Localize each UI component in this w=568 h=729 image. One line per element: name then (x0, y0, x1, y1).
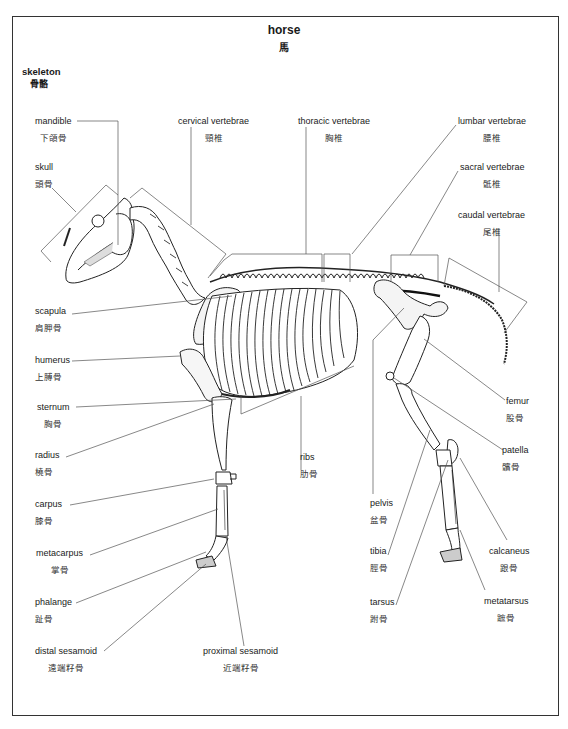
label-distal-sesamoid: distal sesamoid 遠端籽骨 (35, 646, 97, 674)
label-humerus: humerus 上膊骨 (35, 355, 70, 383)
label-radius: radius 橈骨 (35, 450, 60, 478)
horse-skeleton-illustration (0, 0, 568, 729)
radius-bone (212, 397, 232, 470)
patella-bone (386, 372, 394, 380)
pelvis-bone (374, 280, 448, 329)
label-ribs: ribs 肋骨 (300, 452, 318, 480)
title-english: horse (0, 23, 568, 37)
label-skull: skull 頭骨 (35, 162, 53, 190)
label-lumbar-vertebrae: lumbar vertebrae 腰椎 (458, 116, 526, 144)
label-femur: femur 股骨 (506, 396, 529, 424)
carpus-bone (216, 472, 236, 484)
label-phalange: phalange 趾骨 (35, 597, 72, 625)
hind-hoof (440, 548, 462, 562)
label-tibia: tibia 脛骨 (370, 546, 388, 574)
tarsus-bone (436, 450, 452, 466)
section-heading: skeleton 骨骼 (22, 66, 61, 90)
label-patella: patella 髕骨 (502, 445, 529, 473)
label-tarsus: tarsus 跗骨 (370, 597, 395, 625)
label-proximal-sesamoid: proximal sesamoid 近端籽骨 (203, 646, 278, 674)
label-cervical-vertebrae: cervical vertebrae 頸椎 (178, 116, 249, 144)
label-pelvis: pelvis 盆骨 (370, 498, 393, 526)
neck-vertebrae (130, 206, 205, 304)
label-sacral-vertebrae: sacral vertebrae 骶椎 (460, 162, 525, 190)
label-mandible: mandible 下頜骨 (35, 116, 72, 144)
label-carpus: carpus 膝骨 (35, 499, 62, 527)
front-hoof (196, 556, 216, 568)
tail-vertebrae (444, 286, 507, 364)
label-sternum: sternum 胸骨 (37, 402, 70, 430)
metacarpus-bone (216, 486, 228, 536)
label-caudal-vertebrae: caudal vertebrae 尾椎 (458, 210, 525, 238)
label-metatarsus: metatarsus 蹠骨 (484, 596, 529, 624)
ribcage (203, 288, 357, 396)
label-calcaneus: calcaneus 跟骨 (489, 546, 530, 574)
label-thoracic-vertebrae: thoracic vertebrae 胸椎 (298, 116, 370, 144)
section-chinese: 骨骼 (30, 79, 61, 90)
section-english: skeleton (22, 66, 61, 77)
label-metacarpus: metacarpus 掌骨 (36, 548, 83, 576)
label-scapula: scapula 肩胛骨 (35, 306, 66, 334)
title-chinese: 馬 (0, 39, 568, 54)
